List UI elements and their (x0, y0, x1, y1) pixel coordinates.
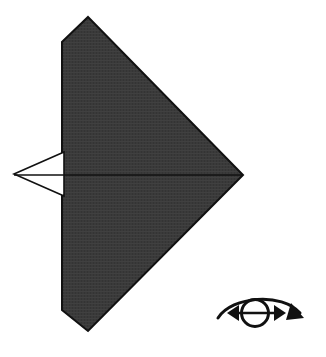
origami-diagram: Origami step diagram (0, 0, 326, 357)
diagram-canvas (0, 0, 326, 357)
